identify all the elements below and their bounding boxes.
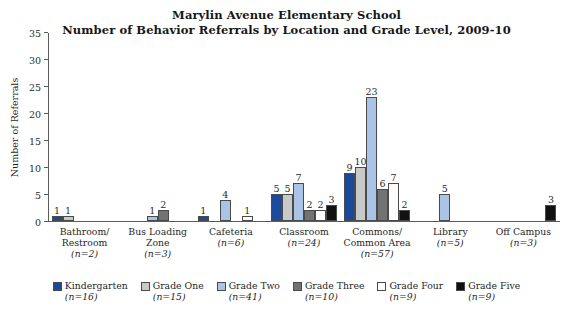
- bar[interactable]: 1: [198, 216, 209, 221]
- x-axis-category-count: (n=57): [342, 248, 413, 259]
- bar-group: 5: [414, 33, 487, 221]
- legend-label: Grade One(n=15): [153, 281, 204, 302]
- x-axis-category-line: Library: [415, 226, 486, 237]
- bar[interactable]: 23: [366, 97, 377, 221]
- bar[interactable]: 2: [315, 210, 326, 221]
- y-axis-title: Number of Referrals: [8, 33, 22, 222]
- x-axis-category-line: Restroom: [49, 237, 120, 248]
- legend-item[interactable]: Kindergarten(n=16): [53, 281, 128, 302]
- bar-group-bars: 557223: [267, 33, 340, 221]
- y-axis-tick-label: 10: [29, 163, 41, 174]
- legend-swatch-icon: [456, 282, 465, 291]
- bar[interactable]: 3: [326, 205, 337, 221]
- bar-group: 557223: [267, 33, 340, 221]
- bar-slot: 1: [52, 33, 63, 221]
- y-axis-tick-label: 35: [29, 28, 41, 39]
- x-axis-category-label: Bathroom/Restroom(n=2): [48, 226, 121, 259]
- legend-label: Grade Three(n=10): [305, 281, 364, 302]
- bar-value-label: 7: [295, 173, 301, 183]
- bar-slot: [253, 33, 264, 221]
- bar-value-label: 4: [222, 190, 228, 200]
- bar[interactable]: 2: [399, 210, 410, 221]
- bar-slot: 1: [147, 33, 158, 221]
- x-axis-category-label: Classroom(n=24): [267, 226, 340, 259]
- y-axis-tick-label: 15: [29, 136, 41, 147]
- y-axis-tick-label: 20: [29, 109, 41, 120]
- bar-slot: 9: [344, 33, 355, 221]
- bar-group-bars: 3: [487, 33, 560, 221]
- bar-slot: [231, 33, 242, 221]
- bar[interactable]: 1: [63, 216, 74, 221]
- x-axis-category-line: Off Campus: [488, 226, 559, 237]
- bar[interactable]: 5: [271, 194, 282, 221]
- legend-series-count: (n=9): [468, 292, 520, 303]
- chart-figure: Marylin Avenue Elementary School Number …: [0, 0, 573, 315]
- bar-slot: [534, 33, 545, 221]
- legend-item[interactable]: Grade Four(n=9): [377, 281, 443, 302]
- bar-group-bars: 12: [121, 33, 194, 221]
- bar-slot: 2: [158, 33, 169, 221]
- bar[interactable]: 4: [220, 200, 231, 221]
- x-axis-category-line: Bus Loading: [122, 226, 193, 237]
- legend-item[interactable]: Grade Two(n=41): [217, 281, 280, 302]
- bar[interactable]: 5: [439, 194, 450, 221]
- legend-label: Grade Four(n=9): [389, 281, 443, 302]
- bar[interactable]: 1: [52, 216, 63, 221]
- bar-value-label: 2: [402, 200, 408, 210]
- bar-group-bars: 11: [48, 33, 121, 221]
- y-axis-tick-label: 25: [29, 82, 41, 93]
- legend-swatch-icon: [217, 282, 226, 291]
- bar-slot: [96, 33, 107, 221]
- legend-series-name: Grade Three: [305, 281, 364, 292]
- page-title: Marylin Avenue Elementary School: [0, 8, 573, 23]
- bar[interactable]: 7: [293, 183, 304, 221]
- legend-series-name: Grade Two: [229, 281, 280, 292]
- bar[interactable]: 10: [355, 167, 366, 221]
- bar-slot: [501, 33, 512, 221]
- bar-slot: [85, 33, 96, 221]
- bar-value-label: 6: [380, 179, 386, 189]
- bar-value-label: 2: [160, 200, 166, 210]
- legend-item[interactable]: Grade Three(n=10): [293, 281, 364, 302]
- x-axis-category-line: Bathroom/: [49, 226, 120, 237]
- bar[interactable]: 9: [344, 173, 355, 221]
- legend-series-name: Grade One: [153, 281, 204, 292]
- x-axis-category-count: (n=3): [488, 237, 559, 248]
- legend-item[interactable]: Grade One(n=15): [141, 281, 204, 302]
- bar-slot: [180, 33, 191, 221]
- x-axis-category-line: Common Area: [342, 237, 413, 248]
- bar-slot: [169, 33, 180, 221]
- x-axis-category-count: (n=3): [122, 248, 193, 259]
- legend-series-name: Grade Four: [389, 281, 443, 292]
- x-axis-category-label: Commons/Common Area(n=57): [341, 226, 414, 259]
- legend-series-count: (n=41): [229, 292, 280, 303]
- bar[interactable]: 2: [304, 210, 315, 221]
- bar[interactable]: 3: [545, 205, 556, 221]
- legend-series-name: Grade Five: [468, 281, 520, 292]
- bar[interactable]: 1: [147, 216, 158, 221]
- bar[interactable]: 1: [242, 216, 253, 221]
- bar[interactable]: 5: [282, 194, 293, 221]
- x-axis-line: [48, 221, 560, 222]
- bar-value-label: 7: [391, 173, 397, 183]
- x-axis-category-count: (n=6): [195, 237, 266, 248]
- x-axis-category-label: Off Campus(n=3): [487, 226, 560, 259]
- bar-value-label: 1: [149, 206, 155, 216]
- bar[interactable]: 7: [388, 183, 399, 221]
- bar-value-label: 3: [548, 195, 554, 205]
- bar-value-label: 1: [244, 206, 250, 216]
- bar-value-label: 9: [347, 163, 353, 173]
- legend-series-name: Kindergarten: [65, 281, 128, 292]
- bar-slot: [523, 33, 534, 221]
- x-axis-category-label: Bus LoadingZone(n=3): [121, 226, 194, 259]
- x-axis-category-label: Library(n=5): [414, 226, 487, 259]
- bar-slot: [125, 33, 136, 221]
- bar[interactable]: 2: [158, 210, 169, 221]
- bar-value-label: 3: [328, 195, 334, 205]
- x-axis-category-line: Zone: [122, 237, 193, 248]
- bar[interactable]: 6: [377, 189, 388, 221]
- legend-item[interactable]: Grade Five(n=9): [456, 281, 520, 302]
- bar-group: 11: [48, 33, 121, 221]
- bar-slot: [107, 33, 118, 221]
- bar-slot: 5: [271, 33, 282, 221]
